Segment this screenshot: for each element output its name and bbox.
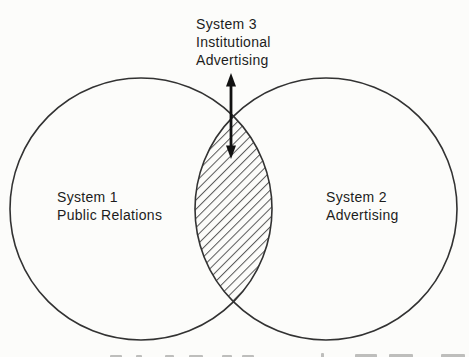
venn-diagram-figure: System 3 Institutional Advertising Syste…: [0, 0, 469, 357]
right-circle-label: System 2 Advertising: [326, 188, 399, 224]
overlap-label-line1: System 3: [196, 15, 271, 33]
right-circle-label-line1: System 2: [326, 188, 399, 206]
overlap-label: System 3 Institutional Advertising: [196, 15, 271, 69]
right-circle-label-line2: Advertising: [326, 206, 399, 224]
overlap-label-line3: Advertising: [196, 51, 271, 69]
left-circle-label-line1: System 1: [57, 188, 162, 206]
left-circle-label-line2: Public Relations: [57, 206, 162, 224]
cropped-caption-fragments: [0, 349, 469, 357]
left-circle-label: System 1 Public Relations: [57, 188, 162, 224]
overlap-region: [195, 116, 272, 302]
overlap-label-line2: Institutional: [196, 33, 271, 51]
